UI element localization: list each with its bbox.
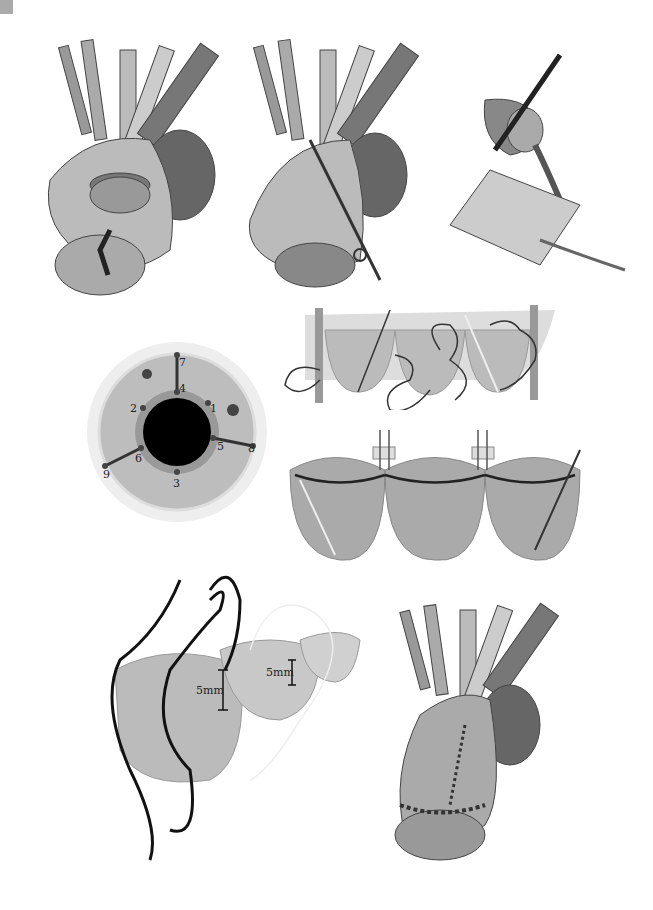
panel-heart-valve-exposed xyxy=(30,30,250,300)
corner-marker xyxy=(0,0,13,14)
measurement-label-left: 5mm xyxy=(196,684,224,697)
panel-completed-repair xyxy=(380,595,570,875)
annulus-label-4: 4 xyxy=(179,382,186,395)
panel-graft-preparation xyxy=(430,40,640,290)
panel-annulus-top-view: 1 2 3 4 5 6 7 8 9 xyxy=(85,340,270,525)
panel-graft-strip-sutures xyxy=(280,300,560,410)
annulus-label-7: 7 xyxy=(179,356,186,369)
annulus-label-9: 9 xyxy=(103,468,110,481)
annulus-label-5: 5 xyxy=(217,440,224,453)
measurement-label-right: 5mm xyxy=(266,666,294,679)
annulus-label-1: 1 xyxy=(210,402,217,415)
panel-graft-sewn-pledgets xyxy=(285,425,585,570)
annulus-label-2: 2 xyxy=(130,402,137,415)
panel-aortic-incision xyxy=(240,30,440,300)
annulus-label-3: 3 xyxy=(173,477,180,490)
panel-cusp-suture-measurement: 5mm 5mm xyxy=(100,570,370,870)
annulus-label-6: 6 xyxy=(135,452,142,465)
annulus-label-8: 8 xyxy=(248,442,255,455)
